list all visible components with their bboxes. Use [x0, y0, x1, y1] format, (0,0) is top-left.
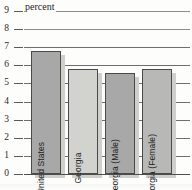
y-axis-tick-mark-7 — [14, 47, 23, 48]
x-axis-baseline — [24, 174, 190, 175]
y-axis-tick-mark-0 — [14, 174, 23, 175]
y-axis-tick-4: 4 — [4, 97, 9, 107]
percent-annotation: percent — [25, 1, 56, 12]
y-axis-tick-mark-4 — [14, 102, 23, 103]
y-axis-tick-9: 9 — [4, 6, 9, 16]
y-axis-tick-mark-8 — [14, 29, 23, 30]
y-axis: 9876543210 — [0, 0, 22, 190]
y-axis-tick-mark-5 — [14, 83, 23, 84]
y-axis-tick-1: 1 — [4, 151, 9, 161]
bar-label: United States — [36, 142, 46, 190]
bar-group[interactable]: United States — [31, 51, 61, 174]
plot-area: United StatesGeorgiaGeorgia (Male)Georgi… — [24, 11, 190, 174]
page-shadow — [0, 184, 192, 190]
y-axis-tick-3: 3 — [4, 115, 9, 125]
bar-group[interactable]: Georgia — [68, 69, 98, 174]
bar-label: Georgia (Male) — [110, 139, 120, 190]
y-axis-tick-mark-2 — [14, 138, 23, 139]
y-axis-tick-6: 6 — [4, 61, 9, 71]
bar-chart: percent 9876543210 United StatesGeorgiaG… — [0, 0, 192, 190]
y-axis-tick-5: 5 — [4, 79, 9, 89]
y-axis-tick-mark-9 — [14, 11, 23, 12]
bar-label: Georgia (Female) — [147, 134, 157, 190]
y-axis-tick-0: 0 — [4, 169, 9, 179]
y-axis-tick-mark-1 — [14, 156, 23, 157]
y-axis-tick-7: 7 — [4, 42, 9, 52]
bar-group[interactable]: Georgia (Male) — [105, 73, 135, 174]
y-axis-tick-8: 8 — [4, 24, 9, 34]
bar-group[interactable]: Georgia (Female) — [142, 69, 172, 174]
y-axis-tick-mark-3 — [14, 120, 23, 121]
bar-series: United StatesGeorgiaGeorgia (Male)Georgi… — [24, 11, 190, 174]
y-axis-tick-2: 2 — [4, 133, 9, 143]
y-axis-tick-mark-6 — [14, 65, 23, 66]
bar-label: Georgia — [73, 153, 83, 184]
